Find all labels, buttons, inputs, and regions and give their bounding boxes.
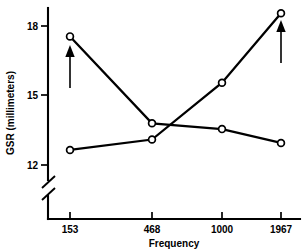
data-point-descending-1967 <box>278 140 285 147</box>
y-tick-label-15: 15 <box>27 90 39 101</box>
axis-group <box>42 8 300 219</box>
y-tick-label-18: 18 <box>27 21 39 32</box>
series-line-descending <box>70 36 281 143</box>
data-point-ascending-153 <box>67 147 74 154</box>
x-tick-group: 153 468 1000 1967 <box>62 212 293 235</box>
data-point-ascending-468 <box>149 136 156 143</box>
annotation-arrow-left <box>65 45 74 88</box>
x-tick-label-1000: 1000 <box>211 224 234 235</box>
data-point-descending-468 <box>149 120 156 127</box>
data-point-ascending-1967 <box>278 10 285 17</box>
annotation-arrow-right <box>276 20 285 63</box>
gsr-frequency-line-chart: 18 15 12 153 468 1000 1967 Frequency GSR… <box>0 0 303 250</box>
y-axis-title: GSR (millimeters) <box>5 71 16 155</box>
data-point-ascending-1000 <box>219 79 226 86</box>
data-point-descending-153 <box>67 33 74 40</box>
chart-figure: 18 15 12 153 468 1000 1967 Frequency GSR… <box>0 0 303 250</box>
x-axis-title: Frequency <box>149 238 200 249</box>
y-tick-label-12: 12 <box>27 160 39 171</box>
x-tick-label-153: 153 <box>62 224 79 235</box>
series-line-ascending <box>70 13 281 150</box>
y-tick-group: 18 15 12 <box>27 21 48 171</box>
arrow-right-head-icon <box>276 20 285 32</box>
data-point-descending-1000 <box>219 126 226 133</box>
series-layer <box>67 10 285 153</box>
arrow-left-head-icon <box>65 45 74 57</box>
x-tick-label-468: 468 <box>144 224 161 235</box>
x-tick-label-1967: 1967 <box>270 224 293 235</box>
